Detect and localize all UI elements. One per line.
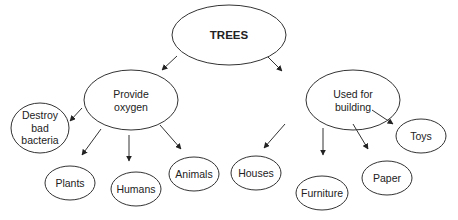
node-plants: Plants	[55, 177, 84, 190]
node-provide-oxygen: Provide oxygen	[113, 88, 149, 113]
arrow-used-for-building-to-toys	[372, 110, 393, 124]
arrow-trees-to-provide-oxygen	[162, 56, 177, 70]
concept-map: TREES Provide oxygen Used for building D…	[0, 0, 458, 220]
node-trees: TREES	[210, 29, 248, 42]
node-furniture: Furniture	[301, 187, 343, 200]
node-humans: Humans	[116, 183, 155, 196]
arrow-used-for-building-to-houses	[264, 124, 285, 148]
arrow-used-for-building-to-paper	[353, 124, 368, 149]
node-destroy-bad-bacteria: Destroy bad bacteria	[21, 109, 58, 147]
arrow-provide-oxygen-to-animals	[160, 125, 181, 149]
node-houses: Houses	[238, 167, 274, 180]
arrow-trees-to-used-for-building	[268, 57, 282, 71]
arrow-provide-oxygen-to-plants	[82, 129, 101, 155]
node-paper: Paper	[373, 172, 401, 185]
node-used-for-building: Used for building	[333, 88, 373, 113]
node-toys: Toys	[410, 130, 432, 143]
node-animals: Animals	[175, 168, 212, 181]
arrow-provide-oxygen-to-destroy-bad-bacteria	[70, 108, 82, 121]
